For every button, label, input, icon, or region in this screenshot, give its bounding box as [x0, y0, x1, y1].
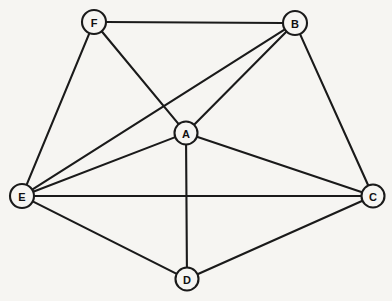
graph-node-d[interactable]: D	[176, 268, 199, 291]
node-label-a: A	[182, 128, 190, 140]
graph-edge-f-b	[106, 22, 283, 23]
edge-layer	[27, 22, 369, 274]
node-label-c: C	[369, 191, 377, 203]
graph-edge-a-c	[197, 137, 362, 193]
graph-diagram: ABCDEF	[0, 0, 392, 301]
graph-edge-b-e	[32, 29, 285, 189]
graph-edge-f-a	[102, 31, 179, 124]
graph-node-a[interactable]: A	[175, 122, 198, 145]
node-label-f: F	[91, 17, 98, 29]
graph-edge-a-e	[33, 137, 175, 192]
graph-canvas: ABCDEF	[0, 0, 392, 301]
node-label-b: B	[291, 18, 299, 30]
graph-node-b[interactable]: B	[283, 11, 307, 35]
node-layer: ABCDEF	[10, 10, 385, 291]
graph-edge-a-d	[186, 145, 187, 268]
graph-node-f[interactable]: F	[82, 10, 106, 34]
graph-node-e[interactable]: E	[10, 184, 34, 208]
graph-edge-e-d	[33, 201, 177, 273]
graph-edge-c-d	[198, 201, 363, 275]
graph-edge-f-e	[27, 33, 90, 185]
node-label-e: E	[18, 191, 25, 203]
node-label-d: D	[183, 274, 191, 286]
graph-edge-b-c	[300, 34, 368, 186]
graph-node-c[interactable]: C	[362, 185, 385, 208]
